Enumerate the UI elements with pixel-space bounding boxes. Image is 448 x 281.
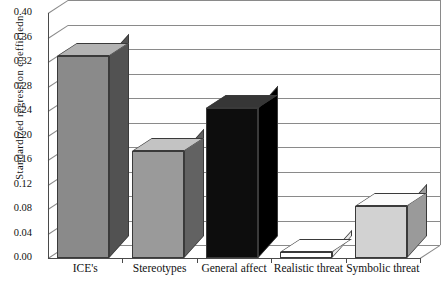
y-tick-label-0-08: 0.08	[0, 203, 32, 213]
bar-symbolic-threat	[355, 193, 407, 258]
x-axis-line	[48, 258, 420, 259]
plot-area: ICE'sStereotypesGeneral affectRealistic …	[48, 0, 448, 281]
gridline-depth-connector	[48, 25, 69, 39]
y-tick-label-0-28: 0.28	[0, 81, 32, 91]
bar-realistic-threat	[280, 239, 332, 258]
y-tick-label-0-32: 0.32	[0, 56, 32, 66]
bar-front-face	[206, 108, 258, 258]
floor-right-depth-edge	[420, 245, 441, 259]
y-tick-label-0-20: 0.20	[0, 130, 32, 140]
bar-side-face	[109, 34, 129, 258]
bar-general-affect	[206, 95, 258, 258]
bar-stereotypes	[132, 138, 184, 258]
y-axis-line	[48, 13, 49, 259]
back-wall-right-edge	[440, 0, 441, 245]
y-tick-label-0-36: 0.36	[0, 32, 32, 42]
bar-front-face	[132, 151, 184, 258]
gridline-0-36	[68, 25, 440, 26]
y-tick-label-0-40: 0.40	[0, 7, 32, 17]
bar-ice-s	[57, 43, 109, 258]
gridline-depth-connector	[48, 0, 69, 14]
bar-side-face	[258, 86, 278, 258]
chart-container: Standardized regression coefficiedn 0.40…	[0, 0, 448, 281]
bar-front-face	[355, 206, 407, 258]
x-axis-label-symbolic-threat: Symbolic threat	[338, 262, 428, 274]
y-axis-tick-labels: 0.400.360.320.280.240.200.160.120.080.04…	[0, 0, 32, 281]
y-tick-label-0-00: 0.00	[0, 252, 32, 262]
x-tick-mark	[420, 258, 421, 263]
bar-front-face	[57, 56, 109, 258]
bar-top-face	[280, 239, 352, 252]
y-tick-label-0-12: 0.12	[0, 179, 32, 189]
bar-front-face	[280, 252, 332, 258]
y-tick-label-0-04: 0.04	[0, 228, 32, 238]
gridline-0-40	[68, 0, 440, 1]
y-tick-label-0-16: 0.16	[0, 154, 32, 164]
y-tick-label-0-24: 0.24	[0, 105, 32, 115]
